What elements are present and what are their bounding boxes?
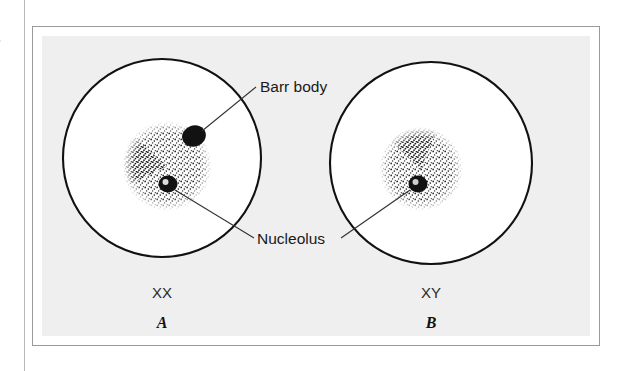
figure-panel: XX A XY B Barr bod: [42, 36, 590, 336]
cell-diagram: XX A XY B Barr bod: [42, 36, 592, 338]
margin-text-fragments: B e e 0 r i: [0, 28, 14, 178]
panel-letter-a: A: [156, 314, 168, 331]
karyotype-label-a: XX: [152, 284, 172, 301]
panel-a-cell: [63, 59, 261, 257]
margin-fragment: e: [0, 50, 14, 72]
nucleus-b: [378, 126, 464, 212]
margin-fragment: B: [0, 28, 14, 50]
margin-fragment: i: [0, 138, 14, 160]
karyotype-label-b: XY: [421, 284, 441, 301]
nucleolus-a-highlight: [163, 179, 169, 185]
barr-body-label: Barr body: [260, 78, 327, 95]
panel-b-cell: [330, 62, 532, 264]
nucleolus-b: [409, 176, 428, 193]
figure-frame: XX A XY B Barr bod: [32, 26, 600, 346]
page-margin-rule: [24, 0, 25, 371]
nucleolus-label: Nucleolus: [257, 230, 325, 247]
margin-fragment: 0: [0, 94, 14, 116]
margin-fragment: r: [0, 116, 14, 138]
panel-letter-b: B: [425, 314, 437, 331]
nucleolus-b-highlight: [413, 179, 419, 185]
figure-page: B e e 0 r i: [0, 0, 626, 371]
nucleolus-a: [159, 176, 178, 193]
margin-fragment: e: [0, 72, 14, 94]
